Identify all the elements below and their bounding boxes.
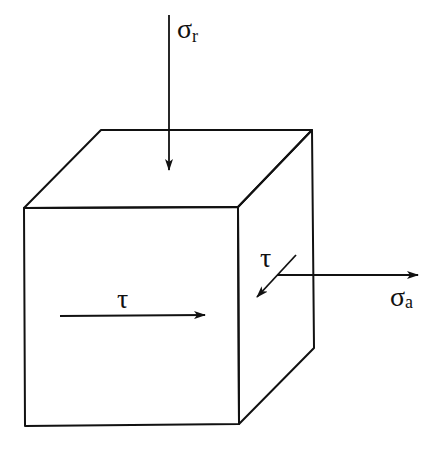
stress-cube-diagram: σr τ τ σa [0,0,439,455]
shear-side-label: τ [260,242,271,273]
radial-stress: σr [169,13,198,170]
shear-side: τ [257,242,296,297]
axial-stress-label: σa [390,281,413,312]
shear-front-arrow [60,315,205,316]
cube-front-face [24,207,239,426]
shear-front-label: τ [117,283,128,314]
cube [24,130,314,426]
axial-stress: σa [277,275,418,312]
shear-front: τ [60,283,205,316]
cube-top-face [24,130,312,208]
radial-stress-label: σr [177,13,198,46]
